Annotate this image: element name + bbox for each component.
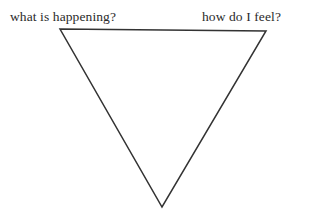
- diagram-canvas: what is happening? how do I feel?: [0, 0, 317, 213]
- inverted-triangle-graphic: [0, 0, 317, 213]
- inverted-triangle-outline: [60, 29, 266, 207]
